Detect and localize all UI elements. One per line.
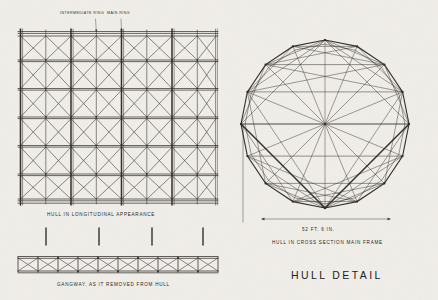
caption-gangway: GANGWAY, AS IT REMOVED FROM HULL xyxy=(57,283,170,288)
label-intermediate-ring: INTERMEDIATE RING xyxy=(60,12,104,16)
label-main-ring: MAIN RING xyxy=(107,12,130,16)
caption-longitudinal: HULL IN LONGITUDINAL APPEARANCE xyxy=(47,213,155,218)
sheet-title: HULL DETAIL xyxy=(291,270,383,281)
caption-cross-section: HULL IN CROSS SECTION MAIN FRAME xyxy=(272,241,383,246)
diameter-dimension-text: 52 FT. 6 IN. xyxy=(302,228,335,233)
paper-grain xyxy=(0,0,438,300)
hull-detail-drawing-sheet xyxy=(0,0,438,300)
